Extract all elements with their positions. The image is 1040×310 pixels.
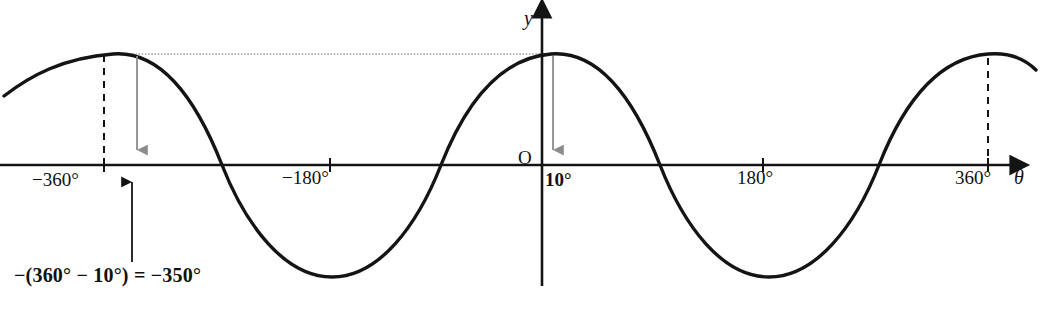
x-tick-label-180: 180° [737, 168, 773, 187]
origin-label: O [518, 148, 532, 167]
x-tick-label-10: 10° [545, 170, 572, 189]
y-axis-label: y [524, 8, 533, 28]
x-axis-label-theta: θ [1014, 167, 1024, 187]
trigonometric-graph-figure: −360° −180° 10° 180° 360° θ y O −(360° −… [0, 0, 1040, 310]
x-tick-label-minus-180: −180° [282, 168, 329, 187]
x-tick-label-360: 360° [955, 168, 991, 187]
annotation-minus-350: −(360° − 10°) = −350° [14, 265, 201, 285]
x-tick-label-minus-360: −360° [32, 170, 79, 189]
